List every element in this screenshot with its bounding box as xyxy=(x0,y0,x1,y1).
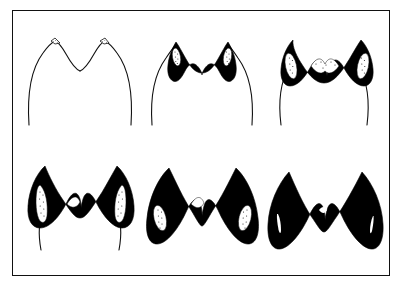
panel-4-drawing xyxy=(17,142,143,275)
panel-6-extreme-wear xyxy=(261,142,387,275)
panel-5-enamel-band xyxy=(146,168,258,244)
page-number-mark: ... xyxy=(386,0,394,4)
panel-2-slight-wear xyxy=(139,13,265,146)
panel-5-drawing xyxy=(139,142,265,275)
panel-5-heavy-wear xyxy=(139,142,265,275)
panel-3-drawing xyxy=(261,13,387,146)
figure-plate: ... xyxy=(0,0,399,289)
panel-1-stipple xyxy=(51,38,109,44)
panel-1-unworn xyxy=(17,13,143,146)
panel-2-drawing xyxy=(139,13,265,146)
plate-frame xyxy=(12,10,390,276)
panel-1-drawing xyxy=(17,13,143,146)
panel-3-moderate-wear xyxy=(261,13,387,146)
panel-grid xyxy=(13,11,389,275)
panel-6-drawing xyxy=(261,142,387,275)
panel-4-advanced-wear xyxy=(17,142,143,275)
